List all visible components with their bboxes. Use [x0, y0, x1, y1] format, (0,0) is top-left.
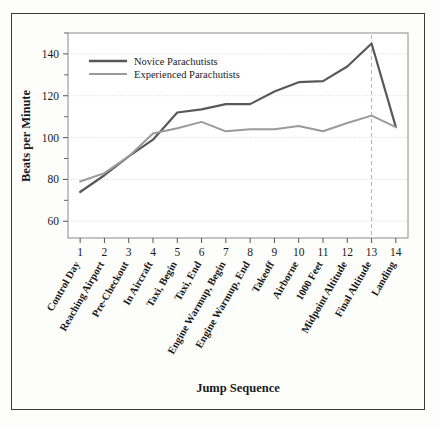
x-tick-label: 14	[390, 246, 402, 258]
x-axis-tick-labels: 1234567891011121314	[77, 246, 402, 258]
x-axis-title: Jump Sequence	[196, 381, 280, 395]
y-tick-label: 100	[42, 132, 60, 144]
y-axis-ticks	[63, 33, 68, 221]
x-tick-label: 6	[199, 246, 205, 258]
plot-background	[68, 33, 408, 238]
x-tick-label: 4	[150, 246, 156, 258]
y-tick-label: 120	[42, 90, 60, 102]
x-tick-label: 7	[223, 246, 229, 258]
y-tick-label: 60	[48, 215, 60, 227]
x-tick-label: 3	[126, 246, 132, 258]
line-chart: 6080100120140 1234567891011121314 Novice…	[0, 0, 440, 427]
x-tick-label: 5	[174, 246, 180, 258]
x-category-label: Takeoff	[250, 259, 277, 294]
x-tick-label: 8	[247, 246, 253, 258]
y-axis-tick-labels: 6080100120140	[42, 48, 60, 227]
y-tick-label: 80	[48, 173, 60, 185]
x-category-label: Landing	[369, 259, 398, 298]
legend-label: Experienced Parachutists	[134, 69, 240, 80]
legend-label: Novice Parachutists	[134, 56, 218, 67]
x-tick-label: 11	[317, 246, 328, 258]
y-tick-label: 140	[42, 48, 60, 60]
x-tick-label: 13	[366, 246, 378, 258]
figure-container: 6080100120140 1234567891011121314 Novice…	[0, 0, 440, 427]
x-tick-label: 10	[293, 246, 305, 258]
x-tick-label: 9	[272, 246, 278, 258]
x-tick-label: 1	[77, 246, 83, 258]
x-axis-ticks	[80, 238, 396, 243]
x-category-labels: Control DayReaching AirportPre-CheckoutI…	[45, 259, 398, 356]
y-axis-title: Beats per Minute	[19, 89, 33, 182]
x-tick-label: 12	[342, 246, 354, 258]
x-tick-label: 2	[102, 246, 108, 258]
